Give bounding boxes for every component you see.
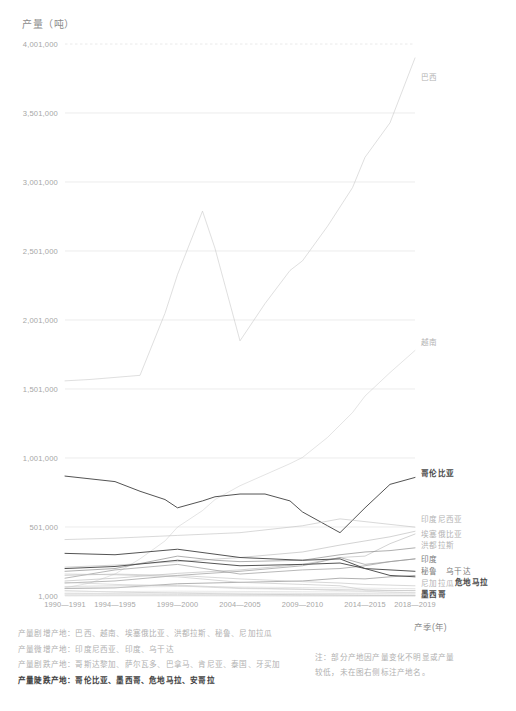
footnote-line: 产量剧跌产地：哥斯达黎加、萨尔瓦多、巴拿马、肯尼亚、泰国、牙买加 (18, 657, 318, 673)
remark-line-2: 较低，未在图右侧标注产地名。 (315, 665, 505, 680)
y-axis-tick-label: 2,501,000 (23, 247, 58, 256)
series-label-巴西: 巴西 (421, 74, 438, 82)
x-axis-tick-label: 1990—1991 (44, 600, 86, 609)
series-label-乌干达: 乌干达 (446, 568, 471, 576)
series-label-洪都拉斯: 洪都拉斯 (421, 542, 454, 550)
x-axis-tick-label: 2014—2015 (344, 600, 386, 609)
footnotes-block: 产量剧增产地：巴西、越南、埃塞俄比亚、洪都拉斯、秘鲁、尼加拉瓜产量微增产地：印度… (18, 626, 318, 688)
y-axis-title: 产量（吨） (22, 16, 75, 31)
y-axis-tick-label: 3,501,000 (23, 109, 58, 118)
series-line (65, 58, 415, 381)
series-label-印度尼西亚: 印度尼西亚 (421, 516, 463, 524)
series-line (65, 574, 415, 586)
footnote-line: 产量剧增产地：巴西、越南、埃塞俄比亚、洪都拉斯、秘鲁、尼加拉瓜 (18, 626, 318, 642)
plot-area (65, 44, 415, 596)
chart-remark: 注：部分产地因产量变化不明显或产量 较低，未在图右侧标注产地名。 (315, 650, 505, 680)
series-label-越南: 越南 (421, 339, 438, 347)
x-axis-tick-label: 2004—2005 (219, 600, 261, 609)
y-axis-tick-label: 1,501,000 (23, 385, 58, 394)
series-label-危地马拉: 危地马拉 (455, 579, 488, 587)
x-axis-tick-label: 2018—2019 (394, 600, 436, 609)
series-line (65, 593, 415, 594)
footnote-line: 产量微增产地：印度尼西亚、印度、乌干达 (18, 642, 318, 658)
x-axis-tick-label: 2009—2010 (282, 600, 324, 609)
series-line (65, 586, 415, 588)
x-axis-tick-label: 1994—1995 (94, 600, 136, 609)
y-axis-tick-label: 4,001,000 (23, 40, 58, 49)
series-line (65, 476, 415, 533)
remark-line-1: 注：部分产地因产量变化不明显或产量 (315, 650, 505, 665)
series-label-埃塞俄比亚: 埃塞俄比亚 (421, 531, 463, 539)
series-line (65, 575, 415, 588)
y-axis-tick-label: 501,000 (30, 523, 59, 532)
y-axis-tick-label: 1,001,000 (23, 454, 58, 463)
series-label-尼加拉瓜: 尼加拉瓜 (421, 580, 454, 588)
series-label-秘鲁: 秘鲁 (421, 568, 438, 576)
series-label-印度: 印度 (421, 556, 438, 564)
series-label-墨西哥: 墨西哥 (421, 591, 446, 599)
series-label-哥伦比亚: 哥伦比亚 (421, 470, 454, 478)
plot-svg (65, 44, 415, 596)
x-axis-tick-label: 1999—2000 (157, 600, 199, 609)
chart-root: 产量（吨） 1,000501,0001,001,0001,501,0002,00… (0, 0, 516, 711)
y-axis-tick-label: 2,001,000 (23, 316, 58, 325)
series-line (65, 519, 415, 540)
y-axis-tick-label: 3,001,000 (23, 178, 58, 187)
x-axis-title: 产季(年) (414, 620, 447, 632)
footnote-line: 产量陡跌产地：哥伦比亚、墨西哥、危地马拉、安哥拉 (18, 673, 318, 689)
y-axis-tick-labels: 1,000501,0001,001,0001,501,0002,001,0002… (0, 44, 58, 596)
x-axis-tick-labels: 1990—19911994—19951999—20002004—20052009… (0, 600, 516, 616)
